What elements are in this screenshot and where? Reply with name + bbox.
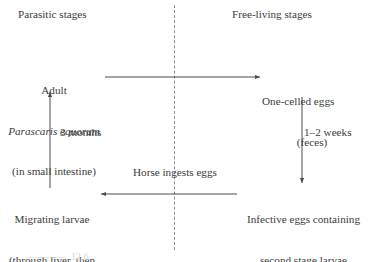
- stage-migrating-larvae-line-1: Migrating larvae: [0, 213, 104, 227]
- stage-infective-eggs: Infective eggs containing second stage l…: [236, 186, 371, 262]
- stage-one-celled-eggs: One-celled eggs (feces): [262, 68, 371, 176]
- stage-infective-eggs-line-2: second stage larvae: [236, 254, 371, 262]
- transition-label-3-months: 3 months: [60, 126, 101, 140]
- stage-adult-line-1: Adult: [0, 84, 108, 98]
- life-cycle-diagram: Parasitic stages Free-living stages Adul…: [0, 0, 371, 262]
- stage-infective-eggs-line-1: Infective eggs containing: [236, 213, 371, 227]
- column-header-parasitic-stages: Parasitic stages: [18, 8, 87, 22]
- stage-adult-line-3: (in small intestine): [0, 165, 108, 179]
- transition-label-1-2-weeks: 1–2 weeks: [304, 126, 352, 140]
- parasitic-freeliving-divider: [174, 5, 175, 250]
- stage-migrating-larvae: Migrating larvae (through liver, then lu…: [0, 186, 104, 262]
- transition-label-horse-ingests-eggs: Horse ingests eggs: [133, 166, 217, 180]
- column-header-free-living-stages: Free-living stages: [232, 8, 312, 22]
- clipped-caption-fragment: ———— 12.6: [26, 252, 216, 262]
- stage-one-celled-eggs-line-1: One-celled eggs: [262, 95, 371, 109]
